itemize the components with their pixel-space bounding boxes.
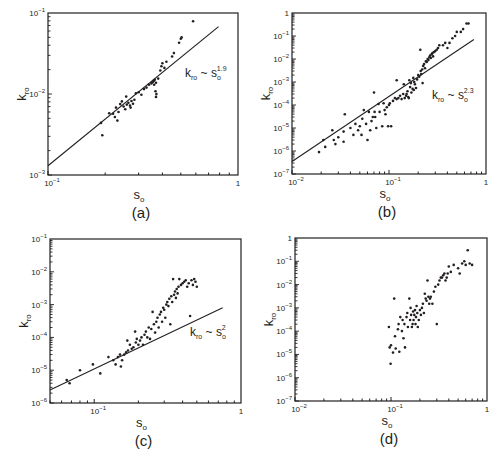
svg-text:10−1: 10−1: [44, 177, 60, 188]
x-tick-labels: 10−11: [44, 177, 241, 188]
x-tick-labels: 10−210−11: [288, 176, 489, 187]
panel-caption: (c): [135, 432, 153, 449]
svg-text:10−3: 10−3: [273, 76, 289, 87]
svg-text:10−1: 10−1: [276, 255, 292, 266]
panel-caption: (d): [380, 430, 398, 447]
panel-c: 10−1110−610−510−410−310−210−1sokro(c)kro…: [16, 233, 244, 449]
svg-text:10−2: 10−2: [31, 266, 47, 277]
plot-frame: [48, 13, 238, 175]
svg-text:10−6: 10−6: [276, 372, 292, 383]
x-tick-labels: 10−11: [90, 405, 243, 416]
svg-text:10−1: 10−1: [31, 233, 47, 244]
svg-text:1: 1: [285, 9, 290, 18]
svg-text:10−1: 10−1: [273, 30, 289, 41]
svg-text:10−2: 10−2: [276, 279, 292, 290]
svg-text:1: 1: [484, 178, 489, 187]
svg-text:10−2: 10−2: [291, 403, 307, 414]
panel-b: 10−210−1110−710−610−510−410−310−210−11so…: [258, 9, 489, 220]
x-axis-label: so: [134, 187, 146, 204]
fit-annotation: kro ~ so1.9: [185, 65, 227, 81]
svg-text:10−4: 10−4: [273, 99, 289, 110]
svg-text:10−1: 10−1: [90, 405, 106, 416]
plot-frame: [50, 239, 241, 403]
fit-annotation: kro ~ so2.3: [432, 87, 474, 103]
y-axis-label: kro: [258, 86, 275, 100]
fit-annotation: kro ~ so2: [190, 324, 226, 340]
svg-text:10−5: 10−5: [273, 122, 289, 133]
svg-text:10−4: 10−4: [276, 325, 292, 336]
y-axis-label: kro: [14, 87, 31, 101]
svg-text:10−3: 10−3: [276, 302, 292, 313]
data-points: [100, 20, 195, 137]
svg-text:10−1: 10−1: [387, 403, 403, 414]
panel-d: 10−210−1110−710−610−510−410−310−210−11so…: [261, 234, 490, 447]
y-axis-label: kro: [261, 312, 278, 326]
figure: 10−1110−310−210−1sokro(a)kro ~ so1.9 10−…: [0, 0, 498, 452]
plot-frame: [295, 238, 487, 401]
fit-line: [48, 27, 219, 166]
svg-text:1: 1: [288, 234, 293, 243]
svg-text:10−1: 10−1: [385, 176, 401, 187]
svg-text:10−2: 10−2: [288, 176, 304, 187]
svg-text:1: 1: [236, 179, 241, 188]
y-axis-label: kro: [16, 314, 33, 328]
y-tick-labels: 10−310−210−1: [29, 7, 45, 180]
svg-text:10−2: 10−2: [273, 53, 289, 64]
x-axis-label: so: [382, 413, 394, 430]
svg-text:10−3: 10−3: [31, 299, 47, 310]
svg-text:1: 1: [239, 407, 244, 416]
svg-text:10−5: 10−5: [31, 364, 47, 375]
panel-a: 10−1110−310−210−1sokro(a)kro ~ so1.9: [14, 7, 241, 221]
y-tick-labels: 10−610−510−410−310−210−1: [31, 233, 47, 408]
svg-text:10−1: 10−1: [29, 7, 45, 18]
svg-text:10−6: 10−6: [273, 145, 289, 156]
svg-text:10−6: 10−6: [31, 397, 47, 408]
x-tick-labels: 10−210−11: [291, 403, 490, 414]
svg-text:10−4: 10−4: [31, 331, 47, 342]
data-points: [388, 249, 474, 365]
fit-line: [50, 308, 223, 390]
svg-text:10−2: 10−2: [29, 88, 45, 99]
svg-text:1: 1: [485, 405, 490, 414]
panel-caption: (a): [132, 204, 150, 221]
y-tick-labels: 10−710−610−510−410−310−210−11: [276, 234, 292, 406]
panel-caption: (b): [378, 203, 396, 220]
data-points: [65, 278, 198, 385]
x-axis-label: so: [380, 186, 392, 203]
svg-text:10−5: 10−5: [276, 348, 292, 359]
y-tick-labels: 10−710−610−510−410−310−210−11: [273, 9, 289, 179]
x-axis-label: so: [136, 415, 148, 432]
